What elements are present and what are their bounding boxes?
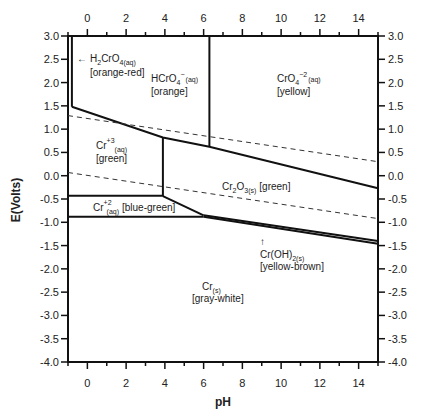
y-tick-label-right: -3.0 <box>388 309 407 321</box>
y-tick-label-right: -2.5 <box>388 286 407 298</box>
y-tick-label-right: -1.5 <box>388 240 407 252</box>
y-tick-label-right: 0.0 <box>388 170 403 182</box>
label-croh2-arrow: ↑ <box>260 236 265 247</box>
x-tick-label-top: 4 <box>162 12 168 24</box>
y-tick-label-right: -2.0 <box>388 263 407 275</box>
y-tick-label-left: -4.0 <box>40 356 59 368</box>
plot-frame <box>68 36 378 362</box>
y-tick-label-left: 0.0 <box>44 170 59 182</box>
y-tick-label-right: 0.5 <box>388 146 403 158</box>
y-tick-label-right: -3.5 <box>388 333 407 345</box>
boundary-line <box>204 215 378 241</box>
y-tick-label-left: -1.5 <box>40 240 59 252</box>
x-tick-label-bottom: 6 <box>201 377 207 389</box>
y-tick-label-left: 0.5 <box>44 146 59 158</box>
pourbaix-diagram: 00224466881010121214143.03.02.52.52.02.0… <box>0 0 422 414</box>
label-cr3: Cr+3(aq) <box>96 137 127 154</box>
x-tick-label-top: 2 <box>123 12 129 24</box>
y-tick-label-left: 1.0 <box>44 123 59 135</box>
x-tick-label-top: 0 <box>84 12 90 24</box>
label-hcro4: HCrO4−(aq) <box>151 71 198 86</box>
label-cro4-color: [yellow] <box>277 86 311 97</box>
x-tick-label-bottom: 0 <box>84 377 90 389</box>
label-h2cro4-color: [orange-red] <box>90 67 145 78</box>
y-tick-label-left: 1.5 <box>44 100 59 112</box>
y-tick-label-right: -4.0 <box>388 356 407 368</box>
label-cr-color: [gray-white] <box>192 293 244 304</box>
x-tick-label-bottom: 10 <box>275 377 287 389</box>
y-tick-label-left: -2.0 <box>40 263 59 275</box>
x-tick-label-bottom: 14 <box>353 377 365 389</box>
y-tick-label-right: 1.5 <box>388 100 403 112</box>
y-tick-label-left: -1.0 <box>40 216 59 228</box>
x-tick-label-bottom: 4 <box>162 377 168 389</box>
x-tick-label-top: 6 <box>201 12 207 24</box>
x-tick-label-top: 8 <box>239 12 245 24</box>
x-tick-label-top: 12 <box>314 12 326 24</box>
plot-border <box>68 36 378 362</box>
y-tick-label-left: 2.5 <box>44 53 59 65</box>
y-tick-label-right: 1.0 <box>388 123 403 135</box>
y-tick-label-right: -0.5 <box>388 193 407 205</box>
y-tick-label-left: -3.5 <box>40 333 59 345</box>
boundary-line <box>204 217 378 244</box>
x-axis-title: pH <box>215 395 231 409</box>
y-tick-label-right: -1.0 <box>388 216 407 228</box>
y-tick-label-left: -3.0 <box>40 309 59 321</box>
y-tick-label-right: 2.5 <box>388 53 403 65</box>
x-tick-label-top: 14 <box>353 12 365 24</box>
x-tick-label-top: 10 <box>275 12 287 24</box>
label-cro4: CrO4−2(aq) <box>277 71 321 86</box>
label-croh2-color: [yellow-brown] <box>260 261 324 272</box>
y-tick-label-left: -2.5 <box>40 286 59 298</box>
y-axis-title: E(Volts) <box>9 178 23 222</box>
label-cr2o3: Cr2O3(s)[green] <box>222 181 291 195</box>
y-tick-label-left: 3.0 <box>44 30 59 42</box>
y-tick-label-left: 2.0 <box>44 77 59 89</box>
x-tick-label-bottom: 12 <box>314 377 326 389</box>
y-tick-label-right: 3.0 <box>388 30 403 42</box>
label-h2cro4: ←H2CrO4(aq) <box>77 53 136 67</box>
label-cr2: Cr+2(aq)[blue-green] <box>93 199 176 216</box>
y-tick-label-right: 2.0 <box>388 77 403 89</box>
x-tick-label-bottom: 8 <box>239 377 245 389</box>
y-tick-label-left: -0.5 <box>40 193 59 205</box>
label-hcro4-color: [orange] <box>151 86 188 97</box>
x-tick-label-bottom: 2 <box>123 377 129 389</box>
label-cr3-color: [green] <box>96 153 127 164</box>
